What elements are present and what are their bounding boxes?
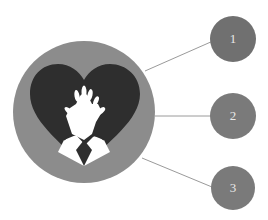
connector-1 — [145, 41, 213, 71]
node-3-label: 3 — [210, 165, 256, 211]
node-2-label: 2 — [210, 93, 256, 139]
connector-3 — [142, 158, 212, 187]
node-1-label: 1 — [210, 16, 256, 62]
